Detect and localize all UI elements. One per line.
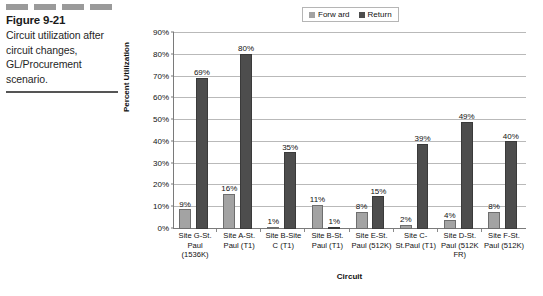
bar-group-2: 1%35% <box>261 32 305 229</box>
bar-forward-1[interactable]: 16% <box>223 194 235 229</box>
bar-return-3[interactable]: 1% <box>328 227 340 229</box>
y-tick-label-90: 90% <box>153 28 169 37</box>
y-tick-label-60: 60% <box>153 93 169 102</box>
bar-label-return-4: 15% <box>370 187 386 196</box>
bar-label-return-2: 35% <box>282 143 298 152</box>
bar-label-return-0: 69% <box>194 68 210 77</box>
bar-label-return-3: 1% <box>328 217 340 226</box>
caption-dash-3 <box>62 4 84 10</box>
figure-caption-block: Figure 9-21 Circuit utilization after ci… <box>6 4 124 93</box>
figure-number: Figure 9-21 <box>6 14 124 27</box>
x-axis-label-3: Site B-St. Paul (T1) <box>305 231 349 260</box>
caption-dash-2 <box>34 4 56 10</box>
y-tick-label-70: 70% <box>153 71 169 80</box>
bar-forward-7[interactable]: 8% <box>488 212 500 230</box>
bar-label-return-7: 40% <box>503 132 519 141</box>
bar-forward-5[interactable]: 2% <box>400 225 412 229</box>
legend-entry-1[interactable]: Return <box>359 10 392 19</box>
legend-label-0: Forw ard <box>318 10 350 19</box>
bar-group-5: 2%39% <box>394 32 438 229</box>
chart: Forw ardReturn Percent Utilization 90%80… <box>128 0 543 296</box>
bar-group-4: 8%15% <box>350 32 394 229</box>
bar-return-6[interactable]: 49% <box>461 122 473 229</box>
bar-label-forward-7: 8% <box>488 202 500 211</box>
bar-forward-0[interactable]: 9% <box>179 209 191 229</box>
y-tick-label-40: 40% <box>153 136 169 145</box>
bar-group-1: 16%80% <box>217 32 261 229</box>
bar-label-forward-5: 2% <box>400 215 412 224</box>
bar-label-forward-1: 16% <box>221 184 237 193</box>
chart-legend: Forw ardReturn <box>302 7 399 22</box>
legend-label-1: Return <box>368 10 392 19</box>
bar-return-1[interactable]: 80% <box>240 54 252 229</box>
plot-wrap: 90%80%70%60%50%40%30%20%10%0% 9%69%16%80… <box>173 32 526 229</box>
legend-swatch-forward <box>309 12 315 18</box>
x-axis-label-6: Site D-St. Paul (512K FR) <box>438 231 482 260</box>
x-axis-label-1: Site A-St. Paul (T1) <box>217 231 261 260</box>
x-axis-label-0: Site G-St. Paul (1536K) <box>173 231 217 260</box>
bar-group-3: 11%1% <box>305 32 349 229</box>
x-axis-title: Circuit <box>173 272 526 281</box>
x-axis-label-2: Site B-Site C (T1) <box>261 231 305 260</box>
bar-label-return-1: 80% <box>238 44 254 53</box>
bar-return-7[interactable]: 40% <box>505 141 517 229</box>
y-tick-label-50: 50% <box>153 115 169 124</box>
bar-label-forward-3: 11% <box>310 195 325 204</box>
x-axis-label-4: Site E-St. Paul (512K) <box>350 231 394 260</box>
legend-entry-0[interactable]: Forw ard <box>309 10 350 19</box>
bar-forward-3[interactable]: 11% <box>312 205 324 229</box>
bar-forward-6[interactable]: 4% <box>444 220 456 229</box>
bar-label-forward-6: 4% <box>444 211 456 220</box>
y-axis-title: Percent Utilization <box>122 42 131 112</box>
x-axis-label-7: Site F-St. Paul (512K) <box>482 231 526 260</box>
caption-dash-4 <box>90 4 112 10</box>
bar-return-4[interactable]: 15% <box>372 196 384 229</box>
bar-forward-2[interactable]: 1% <box>267 227 279 229</box>
figure-caption-text: Circuit utilization after circuit change… <box>6 28 124 86</box>
bar-label-forward-0: 9% <box>179 200 191 209</box>
x-axis-label-5: Site C-St.Paul (T1) <box>394 231 438 260</box>
bar-group-0: 9%69% <box>173 32 217 229</box>
bar-forward-4[interactable]: 8% <box>356 212 368 230</box>
caption-dash-1 <box>6 4 28 10</box>
bar-label-return-5: 39% <box>415 134 431 143</box>
bar-group-6: 4%49% <box>438 32 482 229</box>
bar-label-forward-2: 1% <box>268 217 280 226</box>
y-tick-label-0: 0% <box>157 224 169 233</box>
y-tick-label-20: 20% <box>153 180 169 189</box>
bar-return-2[interactable]: 35% <box>284 152 296 229</box>
x-axis-tick-labels: Site G-St. Paul (1536K)Site A-St. Paul (… <box>173 231 526 260</box>
legend-swatch-return <box>359 12 365 18</box>
bar-label-forward-4: 8% <box>356 202 368 211</box>
y-tick-label-10: 10% <box>153 202 169 211</box>
bar-group-7: 8%40% <box>482 32 526 229</box>
bar-return-5[interactable]: 39% <box>417 144 429 229</box>
y-tick-label-30: 30% <box>153 158 169 167</box>
caption-dash-rule <box>6 4 124 10</box>
bars-layer: 9%69%16%80%1%35%11%1%8%15%2%39%4%49%8%40… <box>173 32 526 229</box>
y-tick-label-80: 80% <box>153 49 169 58</box>
bar-label-return-6: 49% <box>459 112 475 121</box>
caption-divider <box>6 91 118 93</box>
bar-return-0[interactable]: 69% <box>196 78 208 229</box>
